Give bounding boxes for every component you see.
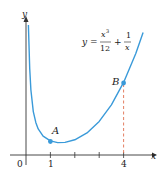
tick-label-0: 0 <box>17 159 23 169</box>
point-a <box>48 139 53 144</box>
point-b-label: B <box>111 76 119 87</box>
equation-num2: 1 <box>126 31 131 40</box>
equation-den1: 12 <box>100 44 110 53</box>
x-axis-label: x <box>151 151 156 161</box>
equation-den2: x <box>125 43 130 52</box>
tick-label-4: 4 <box>121 159 127 169</box>
equation: y = x 3 12 + 1 x <box>81 28 131 53</box>
equation-plus: + <box>114 37 122 47</box>
tick-label-1: 1 <box>48 159 54 169</box>
graph: A B y x 0 1 4 y = x 3 12 + 1 x <box>0 0 168 170</box>
point-a-label: A <box>51 125 59 136</box>
y-axis-label: y <box>21 9 28 19</box>
equation-exp: 3 <box>106 28 109 34</box>
equation-lhs: y = <box>81 37 98 47</box>
point-b <box>121 81 126 86</box>
